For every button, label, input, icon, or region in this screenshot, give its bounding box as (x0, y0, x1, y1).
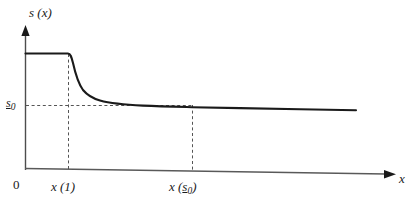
xs0-tick-label: x (s0) (169, 180, 197, 196)
s0-axis-label: s0 (6, 97, 15, 112)
x-axis (25, 169, 396, 179)
figure-container: s (x) s0 0 x (1) x (s0) x (0, 0, 418, 210)
xs0-suffix: ) (192, 179, 196, 194)
origin-label: 0 (13, 178, 20, 191)
x1-tick-label: x (1) (51, 180, 75, 193)
curve-s-of-x (26, 54, 357, 111)
xs0-prefix: x ( (169, 179, 182, 194)
s0-label-sub: 0 (11, 102, 16, 112)
x-axis-label: x (399, 172, 405, 185)
y-axis-label: s (x) (29, 6, 52, 19)
y-axis (21, 25, 29, 170)
